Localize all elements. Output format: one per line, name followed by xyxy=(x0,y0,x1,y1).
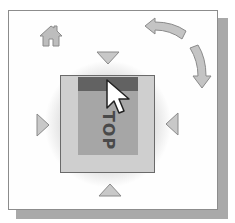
triangle-down-icon xyxy=(96,51,120,65)
curved-arrow-left-icon xyxy=(143,16,188,42)
arrow-right-button[interactable] xyxy=(165,112,179,136)
triangle-right-icon xyxy=(36,113,50,137)
curved-arrow-down-icon xyxy=(188,44,214,90)
triangle-up-icon xyxy=(98,183,122,197)
rotate-ccw-button[interactable] xyxy=(143,16,188,42)
arrow-left-button[interactable] xyxy=(36,113,50,137)
mouse-cursor xyxy=(105,78,131,118)
arrow-up-button[interactable] xyxy=(96,51,120,65)
mouse-pointer-icon xyxy=(105,78,131,118)
home-icon xyxy=(38,24,64,48)
rotate-cw-button[interactable] xyxy=(188,44,214,90)
home-button[interactable] xyxy=(38,24,64,48)
triangle-left-icon xyxy=(165,112,179,136)
arrow-down-button[interactable] xyxy=(98,183,122,197)
